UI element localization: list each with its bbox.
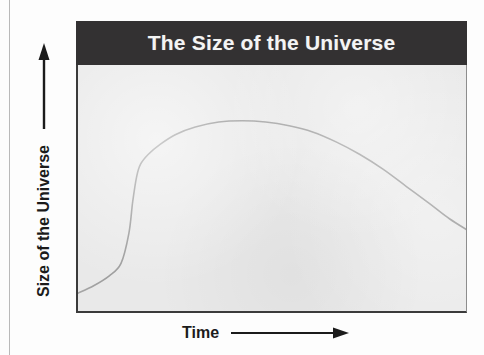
chart-figure: The Size of the Universe — [76, 21, 467, 313]
chart-title: The Size of the Universe — [148, 31, 396, 55]
chart-plot-area — [76, 65, 467, 313]
x-axis-label: Time — [182, 324, 219, 342]
x-axis-label-group: Time — [182, 320, 351, 346]
figure-page: Size of the Universe The Size of the Uni… — [0, 0, 484, 355]
y-axis-label: Size of the Universe — [35, 113, 53, 329]
chart-title-banner: The Size of the Universe — [76, 21, 467, 65]
y-axis-label-group: Size of the Universe — [22, 34, 66, 318]
arrow-right-icon — [229, 325, 351, 341]
page-margin-rule — [9, 0, 10, 355]
universe-size-curve — [78, 65, 467, 313]
